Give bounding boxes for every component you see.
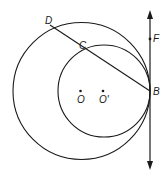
- geometry-diagram: D C B F O O': [0, 0, 167, 180]
- label-c: C: [79, 40, 87, 51]
- point-o-prime: [102, 90, 105, 93]
- label-d: D: [45, 15, 52, 26]
- label-f: F: [153, 33, 160, 44]
- arrow-up-icon: [147, 10, 153, 19]
- chord-db: [50, 25, 150, 91]
- arrow-down-icon: [147, 161, 153, 170]
- point-f: [149, 38, 152, 41]
- point-o: [79, 90, 82, 93]
- label-b: B: [153, 86, 160, 97]
- label-o-prime: O': [99, 94, 110, 105]
- label-o: O: [77, 94, 85, 105]
